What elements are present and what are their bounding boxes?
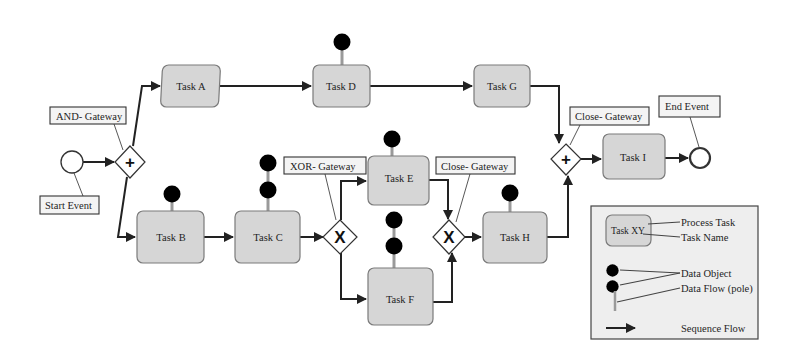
flow-xor-to-e	[341, 181, 366, 220]
xor-split-gateway[interactable]: X	[323, 220, 357, 254]
legend-document-icon	[606, 264, 618, 276]
document-icon[interactable]	[334, 34, 351, 51]
document-icon[interactable]	[384, 131, 401, 148]
end-event[interactable]	[690, 148, 710, 168]
svg-text:Start Event: Start Event	[45, 200, 92, 211]
plus-icon: +	[561, 150, 571, 169]
document-icon[interactable]	[164, 186, 181, 203]
legend-sample-task: Task XY	[606, 215, 651, 246]
flow-f-to-xor-join	[433, 253, 452, 302]
task-b[interactable]: Task B	[137, 211, 204, 263]
svg-text:Task XY: Task XY	[611, 226, 645, 236]
task-c[interactable]: Task C	[235, 211, 300, 263]
end-event-circle[interactable]	[690, 148, 710, 168]
start-event[interactable]	[61, 151, 83, 173]
x-icon: X	[443, 228, 455, 247]
svg-text:Close- Gateway: Close- Gateway	[575, 111, 643, 122]
start-event-label: Start Event	[40, 196, 99, 214]
task-f-label: Task F	[386, 294, 414, 305]
task-h-label: Task H	[500, 232, 530, 243]
task-e[interactable]: Task E	[368, 156, 429, 205]
document-icon[interactable]	[260, 155, 277, 172]
legend-data-object: Data Object	[681, 268, 732, 279]
and-gateway-label: AND- Gateway	[50, 107, 126, 124]
svg-text:XOR- Gateway: XOR- Gateway	[290, 161, 356, 172]
flow-h-to-and-join	[547, 176, 568, 237]
legend-document-icon	[606, 280, 618, 292]
task-i-label: Task I	[620, 152, 646, 163]
and-close-gateway-label: Close- Gateway	[570, 107, 649, 125]
and-join-gateway[interactable]: +	[551, 144, 581, 175]
task-d-label: Task D	[326, 81, 356, 92]
task-f[interactable]: Task F	[368, 268, 433, 325]
end-event-label: End Event	[659, 96, 720, 117]
xor-join-gateway[interactable]: X	[433, 220, 465, 254]
legend: Task XY Process Task Task Name Data Obje…	[591, 206, 758, 339]
task-h[interactable]: Task H	[483, 212, 547, 263]
legend-sequence-flow: Sequence Flow	[681, 323, 746, 334]
xor-gateway-label: XOR- Gateway	[284, 157, 366, 174]
x-icon: X	[334, 228, 346, 247]
xor-close-gateway-label: Close- Gateway	[436, 157, 515, 174]
task-a-label: Task A	[176, 81, 206, 92]
task-g-label: Task G	[487, 81, 517, 92]
start-event-circle[interactable]	[61, 151, 83, 173]
svg-text:Close- Gateway: Close- Gateway	[441, 161, 509, 172]
document-icon[interactable]	[386, 238, 403, 255]
task-e-label: Task E	[385, 173, 414, 184]
task-g[interactable]: Task G	[474, 65, 530, 107]
document-icon[interactable]	[260, 182, 277, 199]
legend-data-flow: Data Flow (pole)	[681, 283, 753, 295]
and-split-gateway[interactable]: +	[115, 146, 145, 178]
document-icon[interactable]	[386, 212, 403, 229]
flow-g-to-and-join	[530, 86, 559, 143]
flow-and-to-task-b	[118, 177, 135, 237]
document-icon[interactable]	[502, 185, 519, 202]
bpmn-diagram: + X X + Task A Task D Task G Task B	[0, 0, 799, 364]
task-c-label: Task C	[253, 232, 282, 243]
flow-e-to-xor-join	[429, 180, 448, 219]
svg-text:AND- Gateway: AND- Gateway	[56, 111, 123, 122]
flow-and-to-task-a	[133, 86, 160, 146]
flow-xor-to-f	[341, 253, 366, 299]
task-a[interactable]: Task A	[160, 65, 220, 107]
svg-text:End Event: End Event	[665, 101, 709, 112]
task-i[interactable]: Task I	[603, 134, 665, 179]
task-d[interactable]: Task D	[313, 65, 370, 107]
legend-process-task: Process Task	[681, 217, 736, 228]
task-b-label: Task B	[156, 232, 185, 243]
legend-task-name: Task Name	[681, 232, 729, 243]
plus-icon: +	[125, 153, 135, 172]
